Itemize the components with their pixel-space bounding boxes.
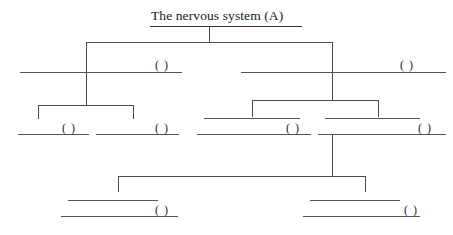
blank-level2-right[interactable]: ( ): [400, 59, 414, 71]
blank-level4-a[interactable]: ( ): [155, 204, 169, 216]
nervous-system-diagram: The nervous system (A) ( ) ( ) ( ) ( ) (…: [0, 0, 453, 235]
blank-level3-a[interactable]: ( ): [62, 122, 76, 134]
diagram-canvas: [0, 0, 453, 235]
blank-level2-left[interactable]: ( ): [155, 59, 169, 71]
blank-level3-c[interactable]: ( ): [286, 122, 300, 134]
diagram-title: The nervous system (A): [151, 9, 283, 23]
blank-level3-d[interactable]: ( ): [418, 122, 432, 134]
blank-level3-b[interactable]: ( ): [155, 122, 169, 134]
blank-level4-b[interactable]: ( ): [404, 204, 418, 216]
